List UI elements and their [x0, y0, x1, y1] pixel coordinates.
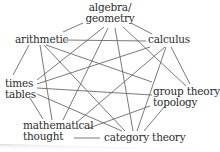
node-group-theory-topology: group theory/ topology: [153, 86, 220, 108]
node-mathematical-thought: mathematical thought: [23, 120, 93, 142]
edge-arithmetic-calculus: [65, 40, 146, 41]
edge-timestables-grouptheory: [37, 88, 152, 95]
edge-timestables-maththought: [30, 98, 43, 119]
node-calculus: calculus: [148, 34, 190, 45]
edge-grouptheory-categorytheory: [144, 106, 165, 131]
node-label-line2: thought: [23, 131, 93, 142]
node-label: category theory: [104, 131, 185, 143]
edge-calculus-timestables: [37, 47, 150, 84]
node-label-line2: geometry: [85, 13, 135, 24]
node-times-tables: times tables: [5, 78, 36, 100]
edge-algebra-arithmetic: [63, 23, 83, 32]
node-arithmetic: arithmetic: [15, 34, 68, 45]
node-algebra-geometry: algebra/ geometry: [85, 2, 135, 24]
edge-calculus-grouptheory: [171, 47, 190, 84]
node-label-line2: topology: [153, 97, 220, 108]
node-category-theory: category theory: [104, 132, 185, 143]
node-label: arithmetic: [15, 33, 68, 45]
edge-arithmetic-timestables: [13, 45, 29, 75]
node-label: calculus: [148, 33, 190, 45]
node-label-line2: tables: [5, 89, 36, 100]
